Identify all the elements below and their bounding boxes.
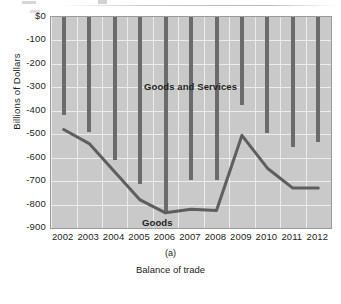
- y-axis-tick-label: -400: [0, 105, 46, 115]
- scan-artifact: [60, 5, 335, 6]
- y-axis-tick-label: -900: [0, 222, 46, 232]
- y-axis-tick-label: -800: [0, 199, 46, 209]
- figure-subcaption: (a): [0, 248, 341, 258]
- scan-artifact: [98, 0, 107, 4]
- y-axis-tick-label: -500: [0, 128, 46, 138]
- x-axis-ticks: 2002200320042005200620072008200920102011…: [50, 231, 331, 245]
- y-axis-tick-label: -200: [0, 58, 46, 68]
- y-axis-label: Billions of Dollars: [11, 32, 22, 152]
- series-label-goods: Goods: [142, 217, 173, 228]
- figure-caption: Balance of trade: [0, 264, 341, 275]
- y-axis-tick-label: $0: [0, 11, 46, 21]
- y-axis-ticks: $0-100-200-300-400-500-600-700-800-900: [0, 0, 46, 304]
- y-axis-tick-label: -600: [0, 152, 46, 162]
- gridline-vertical: [331, 17, 332, 228]
- balance-of-trade-figure: $0-100-200-300-400-500-600-700-800-900 B…: [0, 0, 341, 304]
- y-axis-tick-label: -700: [0, 175, 46, 185]
- y-axis-tick-label: -100: [0, 34, 46, 44]
- y-axis-tick-label: -300: [0, 81, 46, 91]
- series-label-goods-and-services: Goods and Services: [144, 81, 237, 92]
- goods-line-series: [51, 17, 331, 228]
- plot-area: Goods and Services Goods: [50, 16, 332, 229]
- x-axis-tick-label: 2012: [300, 231, 334, 242]
